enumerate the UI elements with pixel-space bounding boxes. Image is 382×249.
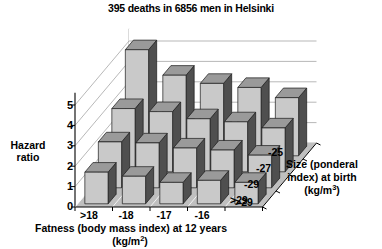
chart-root: 395 deaths in 6856 men in Helsinki 5 4 3… <box>0 0 382 249</box>
x-tick-1: -18 <box>106 209 146 221</box>
y-axis-label: Hazard ratio <box>2 139 54 163</box>
y-axis-label-line2: ratio <box>17 151 40 163</box>
y-axis-label-line1: Hazard <box>10 139 45 151</box>
x-axis-label: Fatness (body mass index) at 12 years <box>0 222 382 235</box>
y-tick-1: 1 <box>59 180 73 192</box>
z-axis-units: (kg/m3) <box>304 184 340 196</box>
z-tick-3: >29 <box>230 194 264 206</box>
x-axis-label-text: Fatness (body mass index) at 12 years <box>35 222 227 234</box>
y-tick-2: 2 <box>59 160 73 172</box>
x-tick-0: >18 <box>69 209 109 221</box>
y-tick-3: 3 <box>59 139 73 151</box>
z-tick-0: -25 <box>268 146 302 158</box>
z-axis-label-line1: Size (ponderal <box>286 158 358 170</box>
x-tick-2: -17 <box>144 209 184 221</box>
x-axis-units-text: (kg/m2) <box>112 235 148 247</box>
x-tick-3: -16 <box>182 209 222 221</box>
z-axis-label: Size (ponderal index) at birth (kg/m3) <box>262 158 382 197</box>
y-tick-4: 4 <box>59 119 73 131</box>
x-axis-units: (kg/m2) <box>0 235 382 248</box>
y-tick-5: 5 <box>59 99 73 111</box>
z-axis-label-line2: index) at birth <box>287 171 356 183</box>
